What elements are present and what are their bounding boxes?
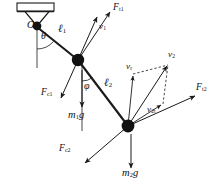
rod-l1-label: ℓ1 xyxy=(58,23,66,35)
velocity-radial-arrow xyxy=(128,76,133,126)
tension-1-arrow xyxy=(78,12,110,60)
velocity-radial-sub: r xyxy=(130,65,132,71)
angle-phi-label: φ xyxy=(84,81,90,91)
weight-1-mass-glyph: m xyxy=(68,109,76,120)
centripetal-1-sub: c1 xyxy=(47,91,53,97)
centripetal-2-sub: c2 xyxy=(65,147,71,153)
velocity-1-label: v1 xyxy=(99,22,106,32)
velocity-tangential-sub: 2t xyxy=(151,108,156,114)
tension-2-glyph: F xyxy=(196,82,202,92)
weight-2-g-glyph: g xyxy=(133,167,138,178)
rod-l2-line xyxy=(78,60,128,126)
weight-2-label: m2g xyxy=(122,168,138,179)
centripetal-1-label: Fc1 xyxy=(41,88,53,98)
mass-1-node xyxy=(72,54,84,66)
tension-1-label: Ft1 xyxy=(113,3,124,13)
centripetal-2-label: Fc2 xyxy=(59,144,71,154)
rod-l2-label: ℓ2 xyxy=(104,77,112,89)
tension-1-sub: t1 xyxy=(119,6,124,12)
centripetal-2-glyph: F xyxy=(59,143,65,153)
velocity-2-sub: 2 xyxy=(172,53,175,59)
rod-l1-glyph: ℓ xyxy=(58,22,63,34)
velocity-tangential-label: v2t xyxy=(147,105,156,115)
rod-l2-glyph: ℓ xyxy=(104,76,109,88)
angle-theta-arc xyxy=(37,42,54,50)
physics-diagram: O θ φ ℓ1 ℓ2 Ft1 v1 Fc1 m1g Ft2 v2 vr v2t… xyxy=(0,0,218,188)
centripetal-1-arrow xyxy=(61,60,78,98)
tension-2-sub: t2 xyxy=(202,86,207,92)
centripetal-2-arrow xyxy=(85,126,128,163)
angle-theta-label: θ xyxy=(41,31,46,41)
weight-1-label: m1g xyxy=(68,110,84,121)
pivot-label: O xyxy=(27,20,34,30)
mass-2-node xyxy=(122,120,135,133)
weight-1-g-glyph: g xyxy=(79,109,84,120)
tension-1-glyph: F xyxy=(113,2,119,12)
weight-2-mass-glyph: m xyxy=(122,167,130,178)
rod-l2-sub: 2 xyxy=(109,81,113,88)
velocity-2-label: v2 xyxy=(168,50,175,60)
tension-2-label: Ft2 xyxy=(196,83,207,93)
velocity-1-sub: 1 xyxy=(103,25,106,31)
centripetal-1-glyph: F xyxy=(41,87,47,97)
velocity-radial-label: vr xyxy=(126,62,132,72)
velocity-1-arrow xyxy=(78,17,97,60)
rod-l1-sub: 1 xyxy=(63,27,67,34)
